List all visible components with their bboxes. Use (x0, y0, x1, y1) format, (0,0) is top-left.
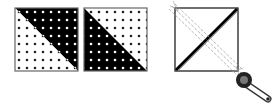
rotary-cutter-icon (236, 72, 270, 101)
stitch-square (169, 1, 243, 78)
hst-diagram (0, 0, 276, 106)
hst-block-2 (84, 8, 147, 71)
hst-block-1 (15, 8, 78, 71)
